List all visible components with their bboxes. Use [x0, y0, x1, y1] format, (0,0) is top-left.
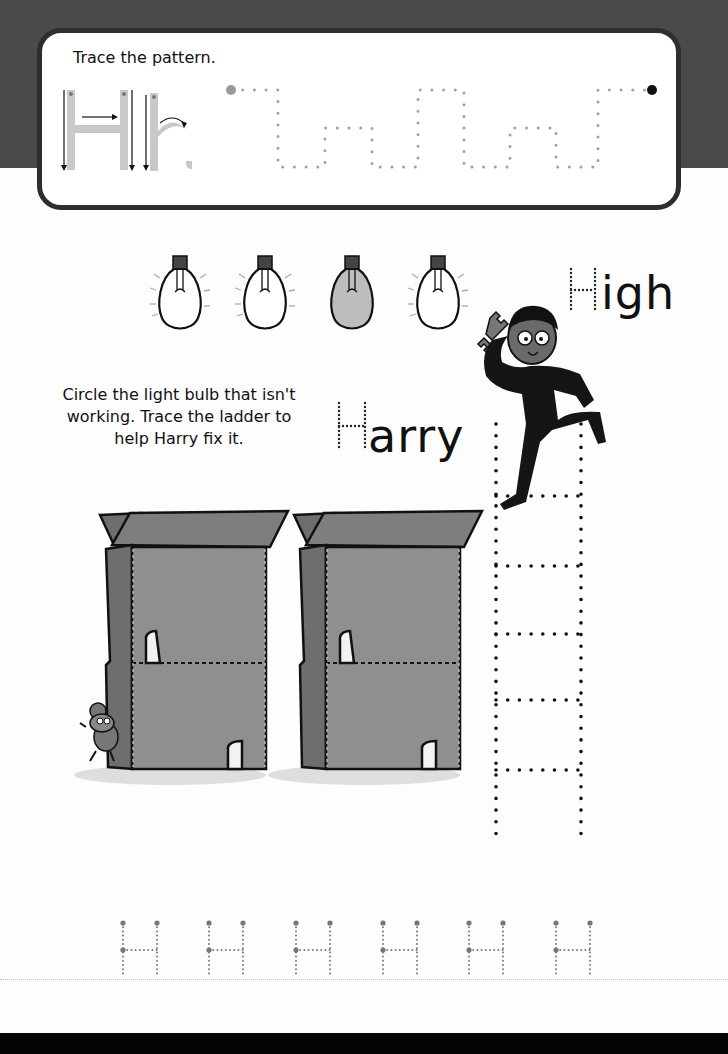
practice-h-5: [466, 920, 505, 977]
word-harry-rest: arry: [368, 413, 464, 459]
practice-h-3: [293, 920, 332, 977]
practice-h-4: [380, 920, 419, 977]
light-bulbs-row: [140, 248, 480, 332]
bulb-broken-icon: [331, 256, 372, 329]
stacked-boxes: [70, 505, 500, 795]
writing-baseline: [0, 979, 728, 980]
harry-character-icon: [470, 300, 630, 500]
bulb-lit-icon: [408, 256, 468, 329]
practice-h-6: [553, 920, 592, 977]
practice-h-2: [206, 920, 245, 977]
practice-h-1: [120, 920, 159, 977]
pattern-start-dot: [226, 85, 236, 95]
bulb-lit-icon: [235, 256, 295, 329]
pattern-end-dot: [647, 85, 657, 95]
activity-instruction: Circle the light bulb that isn't working…: [48, 384, 310, 450]
practice-letter-row[interactable]: [100, 915, 620, 985]
bulb-lit-icon: [150, 256, 210, 329]
trace-pattern-path[interactable]: [0, 0, 728, 230]
box-stack-2: [268, 511, 482, 785]
page-bottom-edge: [0, 1033, 728, 1054]
traced-letter-h-harry[interactable]: [336, 400, 368, 452]
